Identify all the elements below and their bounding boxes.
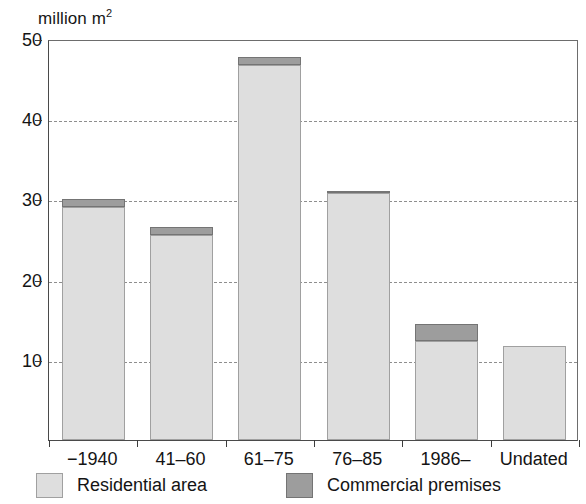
y-axis-unit-label: million m2 [38, 9, 112, 29]
x-axis-tick-2 [314, 440, 315, 447]
bar-segment-residential [503, 346, 566, 440]
x-axis-label-3: 76–85 [332, 449, 382, 470]
chart-legend: Residential areaCommercial premises [36, 470, 576, 500]
bar-segment-residential [62, 207, 125, 440]
bar-41–60 [150, 39, 213, 440]
y-axis-labels: 1020304050 [0, 40, 42, 441]
x-axis-label-0: −1940 [67, 449, 118, 470]
bar-Undated [503, 39, 566, 440]
gridline-20 [49, 282, 577, 283]
y-axis-unit-exponent: 2 [106, 7, 112, 19]
y-axis-tick-50 [35, 40, 42, 41]
y-axis-unit-text: million m [38, 9, 106, 28]
x-axis-tick-0 [137, 440, 138, 447]
bar-segment-commercial [62, 199, 125, 206]
legend-item-residential: Residential area [36, 470, 207, 500]
x-axis-label-2: 61–75 [244, 449, 294, 470]
bar-segment-commercial [415, 324, 478, 342]
x-axis-label-4: 1986– [420, 449, 470, 470]
legend-label-commercial: Commercial premises [327, 475, 501, 496]
bar-segment-commercial [327, 191, 390, 193]
legend-swatch-residential [36, 473, 63, 498]
bar-−1940 [62, 39, 125, 440]
y-axis-tick-40 [35, 120, 42, 121]
chart-page: million m2 1020304050 −194041–6061–7576–… [0, 0, 586, 504]
plot-area [48, 40, 578, 441]
x-axis-tick-3 [402, 440, 403, 447]
bar-segment-residential [238, 65, 301, 440]
legend-label-residential: Residential area [77, 475, 207, 496]
y-axis-tick-30 [35, 200, 42, 201]
bar-segment-residential [327, 193, 390, 440]
bar-1986– [415, 39, 478, 440]
legend-item-commercial: Commercial premises [286, 470, 501, 500]
bar-segment-residential [415, 341, 478, 440]
gridline-40 [49, 121, 577, 122]
bar-segment-commercial [150, 227, 213, 235]
gridline-10 [49, 362, 577, 363]
bar-segment-residential [150, 235, 213, 440]
x-axis-tick-1 [226, 440, 227, 447]
x-axis-tick-5 [579, 440, 580, 447]
x-axis-label-5: Undated [500, 449, 568, 470]
bar-segment-commercial [238, 57, 301, 64]
x-axis-tick-origin [49, 440, 50, 447]
legend-swatch-commercial [286, 473, 313, 498]
y-axis-tick-10 [35, 361, 42, 362]
bar-76–85 [327, 39, 390, 440]
y-axis-tick-20 [35, 281, 42, 282]
x-axis-label-1: 41–60 [155, 449, 205, 470]
gridline-30 [49, 201, 577, 202]
x-axis-tick-4 [491, 440, 492, 447]
bar-61–75 [238, 39, 301, 440]
